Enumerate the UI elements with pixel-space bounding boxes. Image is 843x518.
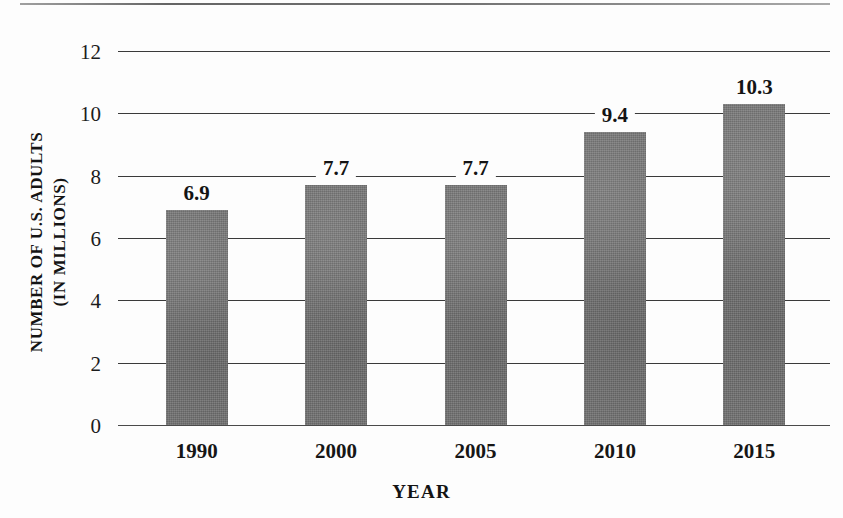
y-axis-title: NUMBER OF U.S. ADULTS (IN MILLIONS): [18, 62, 80, 422]
x-axis-title: YEAR: [0, 481, 843, 503]
x-tick-label-2010: 2010: [594, 439, 636, 464]
y-tick-label-4: 4: [91, 289, 102, 314]
plot-area: 024681012 6.97.77.79.410.3 1990200020052…: [133, 51, 830, 425]
bar-value-label-1990: 6.9: [177, 182, 217, 204]
bar-2000: [305, 185, 367, 425]
y-tick-label-0: 0: [91, 414, 102, 439]
bar-value-label-2000: 7.7: [316, 157, 356, 179]
y-axis-title-line2: (IN MILLIONS): [50, 177, 69, 306]
y-tick-label-6: 6: [91, 227, 102, 252]
y-axis-title-line1: NUMBER OF U.S. ADULTS: [27, 132, 46, 353]
y-tick-label-8: 8: [91, 164, 102, 189]
y-tick-label-10: 10: [80, 102, 101, 127]
y-tick-label-12: 12: [80, 40, 101, 65]
x-tick-label-1990: 1990: [176, 439, 218, 464]
x-tick-label-2005: 2005: [455, 439, 497, 464]
page-top-rule: [20, 3, 830, 5]
bar-value-label-2010: 9.4: [595, 104, 635, 126]
gridline-12: 12: [118, 51, 830, 52]
gridline-0: 0: [118, 425, 830, 426]
x-tick-label-2015: 2015: [733, 439, 775, 464]
bar-value-label-2015: 10.3: [729, 76, 780, 98]
x-tick-label-2000: 2000: [315, 439, 357, 464]
y-tick-label-2: 2: [91, 351, 102, 376]
bar-2015: [723, 104, 785, 425]
bar-2010: [584, 132, 646, 425]
chart-page: NUMBER OF U.S. ADULTS (IN MILLIONS) 0246…: [0, 0, 843, 518]
bar-2005: [445, 185, 507, 425]
bar-value-label-2005: 7.7: [455, 157, 495, 179]
bar-1990: [166, 210, 228, 425]
